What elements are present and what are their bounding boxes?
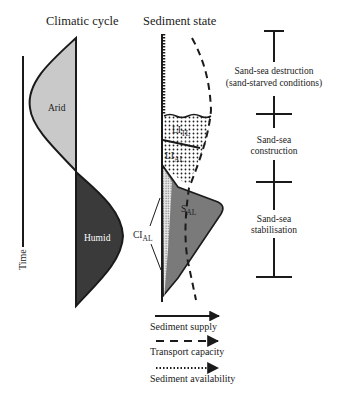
sediment-state-plot: LITL LIAL SAL CIAL	[133, 34, 223, 302]
time-axis: Time	[17, 56, 28, 270]
phase-destruction-line1: Sand-sea destruction	[235, 66, 314, 76]
legend-sediment-availability: Sediment availability	[150, 373, 235, 384]
legend: Sediment supply Transport capacity Sedim…	[150, 316, 235, 384]
legend-sediment-supply: Sediment supply	[150, 321, 217, 332]
phase-construction-line1: Sand-sea	[257, 135, 292, 145]
phase-stabilisation-line1: Sand-sea	[257, 214, 292, 224]
ci-al-label: CIAL	[133, 230, 153, 243]
s-al-region	[163, 166, 223, 296]
legend-transport-capacity: Transport capacity	[150, 346, 224, 357]
arid-label: Arid	[48, 103, 66, 113]
humid-label: Humid	[84, 233, 111, 243]
phase-construction-line2: construction	[251, 146, 298, 156]
phase-stabilisation-line2: stabilisation	[251, 225, 297, 235]
time-axis-label: Time	[17, 249, 28, 270]
title-climatic-cycle: Climatic cycle	[46, 14, 119, 28]
title-sediment-state: Sediment state	[143, 14, 217, 28]
phase-destruction-line2: (sand-starved conditions)	[226, 78, 322, 89]
climatic-cycle-sediment-state-diagram: Climatic cycle Sediment state Time Arid …	[0, 0, 340, 401]
climatic-cycle-curve: Arid Humid	[30, 38, 123, 306]
